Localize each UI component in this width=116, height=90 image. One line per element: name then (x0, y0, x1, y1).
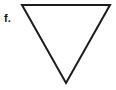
triangle-shape-canvas (0, 0, 116, 90)
inverted-triangle-icon (22, 5, 110, 83)
figure-container: f. (0, 0, 116, 90)
